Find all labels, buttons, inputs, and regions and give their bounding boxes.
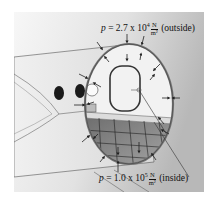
pressure-diagram: p = 2.7 x 104Nm² (outside) p = 1.0 x 105… bbox=[14, 12, 204, 192]
exponent: 5 bbox=[145, 172, 148, 178]
pressure-value: = 1.0 x 10 bbox=[104, 173, 145, 183]
unit-fraction: Nm² bbox=[149, 172, 156, 186]
inside-pressure-label: p = 1.0 x 105Nm² (inside) bbox=[99, 172, 188, 186]
location-suffix: (outside) bbox=[159, 23, 195, 33]
unit-denominator: m² bbox=[149, 180, 156, 187]
unit-fraction: Nm² bbox=[151, 22, 158, 36]
unit-denominator: m² bbox=[151, 30, 158, 37]
window-icon bbox=[54, 86, 64, 100]
outside-pressure-label: p = 2.7 x 104Nm² (outside) bbox=[101, 22, 195, 36]
exponent: 4 bbox=[147, 22, 150, 28]
pressure-value: = 2.7 x 10 bbox=[106, 23, 147, 33]
location-suffix: (inside) bbox=[157, 173, 188, 183]
window-icon bbox=[75, 84, 85, 98]
fuselage-illustration bbox=[14, 12, 204, 192]
